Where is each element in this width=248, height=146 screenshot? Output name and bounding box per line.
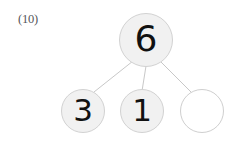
number-bond-part-circle-3-blank[interactable] <box>180 89 224 133</box>
number-bond-part-value-1: 3 <box>73 95 93 126</box>
number-bond-part-circle-1[interactable]: 3 <box>61 89 105 133</box>
connector-line-right <box>160 61 191 92</box>
number-bond-part-circle-2[interactable]: 1 <box>120 89 164 133</box>
problem-number-label: (10) <box>18 12 38 26</box>
connector-line-left <box>94 61 133 92</box>
worksheet-canvas: (10) 6 3 1 <box>0 0 248 146</box>
number-bond-whole-value: 6 <box>135 21 158 57</box>
number-bond-whole-circle[interactable]: 6 <box>119 13 173 67</box>
connector-line-middle <box>142 66 146 91</box>
number-bond-part-value-2: 1 <box>132 95 152 126</box>
